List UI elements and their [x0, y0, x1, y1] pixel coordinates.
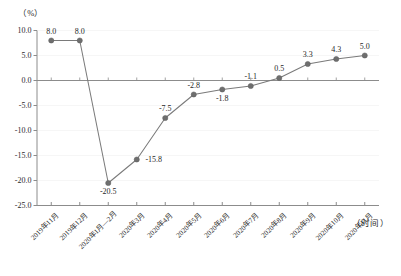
y-axis-tick-label: -20.0: [2, 176, 32, 185]
data-point-label: -20.5: [95, 187, 121, 196]
data-point-markers: [49, 38, 368, 186]
y-axis-tick-label: -15.0: [2, 151, 32, 160]
y-axis-tick-label: 10.0: [2, 26, 32, 35]
axis-lines: [37, 31, 379, 206]
data-point-label: 0.5: [266, 64, 292, 73]
data-point-label: 4.3: [323, 45, 349, 54]
y-axis-unit-label: （%）: [18, 6, 44, 18]
series-line: [51, 41, 365, 184]
gridlines: [37, 31, 379, 206]
y-axis-tick-label: -5.0: [2, 101, 32, 110]
y-axis-ticks: [34, 31, 38, 206]
y-axis-tick-label: -25.0: [2, 201, 32, 210]
data-point-label: 5.0: [352, 42, 378, 51]
y-axis-tick-label: 5.0: [2, 51, 32, 60]
data-point-label: -1.1: [238, 72, 264, 81]
y-axis-tick-label: -10.0: [2, 126, 32, 135]
data-point-label: 8.0: [38, 27, 64, 36]
data-point-label: 8.0: [67, 27, 93, 36]
data-point-label: 3.3: [295, 50, 321, 59]
data-point-label: -15.8: [141, 155, 167, 164]
data-point-label: -1.8: [209, 94, 235, 103]
y-axis-tick-label: 0.0: [2, 76, 32, 85]
data-point-label: -2.8: [181, 81, 207, 90]
data-point-label: -7.5: [152, 104, 178, 113]
